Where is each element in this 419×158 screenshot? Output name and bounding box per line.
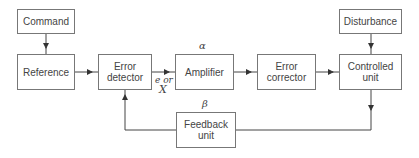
feedback-unit-label: Feedback unit xyxy=(184,119,228,141)
error-corrector-block: Error corrector xyxy=(257,54,316,90)
command-block: Command xyxy=(17,9,75,34)
beta-label: β xyxy=(202,98,208,109)
error-signal-label-line2: X xyxy=(159,85,167,95)
error-detector-label: Error detector xyxy=(105,61,145,83)
controlled-unit-block: Controlled unit xyxy=(339,54,402,90)
controlled-unit-label: Controlled unit xyxy=(348,61,394,83)
amplifier-block: Amplifier xyxy=(175,54,234,90)
amplifier-label: Amplifier xyxy=(185,67,224,78)
disturbance-block: Disturbance xyxy=(339,9,402,34)
disturbance-label: Disturbance xyxy=(344,16,397,27)
alpha-label: α xyxy=(199,40,206,51)
error-detector-block: Error detector xyxy=(98,54,152,90)
reference-block: Reference xyxy=(17,54,75,90)
command-label: Command xyxy=(23,16,69,27)
reference-label: Reference xyxy=(23,67,69,78)
feedback-unit-block: Feedback unit xyxy=(176,112,236,148)
error-corrector-label: Error corrector xyxy=(264,61,309,83)
